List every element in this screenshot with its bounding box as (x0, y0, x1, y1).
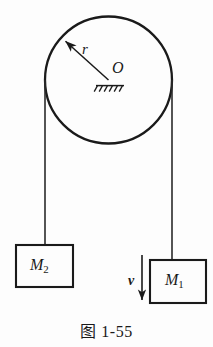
figure-caption: 图 1-55 (0, 318, 213, 342)
block-m1-symbol: M (165, 271, 178, 288)
block-m1-label: M1 (165, 272, 184, 290)
block-m2-label: M2 (30, 257, 49, 275)
axle-support-icon (94, 86, 124, 92)
block-m2-subscript: 2 (43, 263, 48, 275)
block-m1-subscript: 1 (178, 278, 183, 290)
figure-drawing-canvas (0, 0, 213, 347)
velocity-label: v (128, 274, 134, 288)
radius-label: r (82, 42, 88, 57)
center-label: O (112, 60, 124, 76)
block-m2-symbol: M (30, 256, 43, 273)
physics-figure-pulley-two-masses: r O M2 M1 v 图 1-55 (0, 0, 213, 347)
